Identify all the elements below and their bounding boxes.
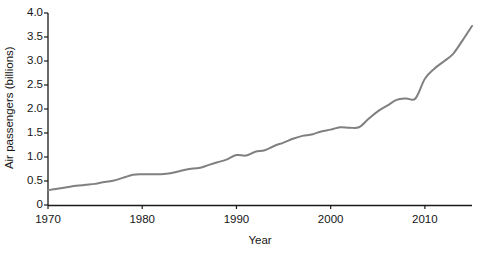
x-tick-label: 2000 xyxy=(306,214,356,226)
y-axis-label: Air passengers (billions) xyxy=(3,47,15,170)
axes-spines xyxy=(48,13,472,206)
x-tick-label: 1980 xyxy=(117,214,167,226)
air-passengers-data-line xyxy=(48,26,472,190)
air-passengers-line-chart: 00.51.01.52.02.53.03.54.0 19701980199020… xyxy=(0,0,482,261)
x-tick-label: 1970 xyxy=(23,214,73,226)
x-axis-label: Year xyxy=(48,235,472,247)
x-tick-label: 2010 xyxy=(400,214,450,226)
x-tick-label: 1990 xyxy=(211,214,261,226)
y-axis-label-container: Air passengers (billions) xyxy=(0,0,18,216)
